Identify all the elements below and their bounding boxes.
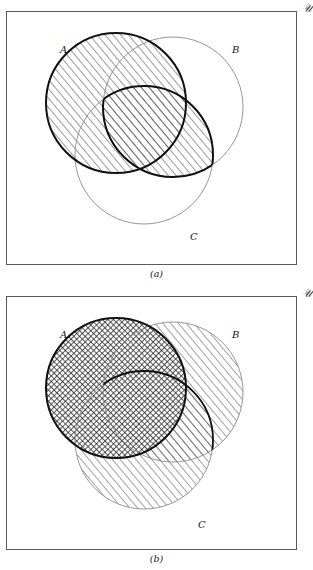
venn-diagram-a [6, 11, 297, 265]
figure-panel-b: 𝒰 A B C ( [0, 285, 313, 570]
venn-diagram-b [6, 296, 297, 550]
set-label-b: B [232, 330, 239, 340]
set-label-b: B [232, 45, 239, 55]
universal-set-icon-a: 𝒰 [302, 3, 312, 14]
set-label-a: A [60, 45, 67, 55]
panel-caption-a: (a) [0, 268, 313, 279]
figure-panel-a: 𝒰 [0, 0, 313, 285]
universal-set-icon-b: 𝒰 [302, 288, 312, 299]
set-label-c: C [190, 232, 198, 242]
set-label-a: A [60, 330, 67, 340]
set-label-c: C [198, 520, 206, 530]
panel-caption-b: (b) [0, 553, 313, 564]
